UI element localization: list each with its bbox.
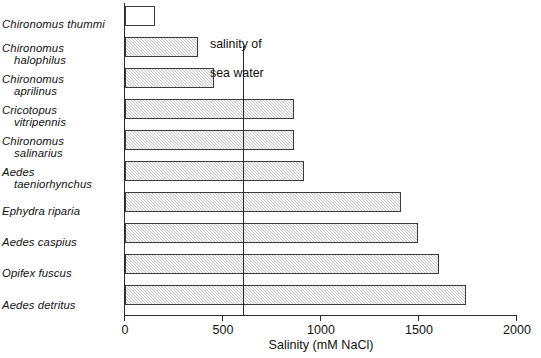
bar-aedes-caspius[interactable]	[125, 223, 418, 243]
bar-chironomus-salinarius[interactable]	[125, 130, 294, 150]
category-label-ephydra-riparia: Ephydra riparia	[2, 192, 114, 217]
seawater-salinity-line	[243, 46, 244, 315]
category-label-opifex-fuscus: Opifex fuscus	[2, 254, 114, 279]
category-label-line1: Opifex fuscus	[2, 267, 72, 279]
x-tick-label-2000: 2000	[503, 323, 531, 337]
bar-opifex-fuscus[interactable]	[125, 254, 439, 274]
x-tick-label-1500: 1500	[405, 323, 433, 337]
plot-area: 0 500 1000 1500 2000	[125, 3, 517, 315]
seawater-annotation-line2: sea water	[210, 66, 264, 80]
x-tick-label-0: 0	[122, 323, 129, 337]
bar-ephydra-riparia[interactable]	[125, 192, 401, 212]
x-tick-0	[124, 315, 125, 321]
category-label-line1: Chironomus	[2, 73, 64, 85]
category-axis-labels: Chironomus thummi Chironomus halophilus …	[0, 0, 120, 318]
seawater-salinity-annotation: salinity of sea water	[210, 22, 264, 80]
category-label-aedes-detritus: Aedes detritus	[2, 286, 114, 311]
x-tick-label-1000: 1000	[307, 323, 335, 337]
bar-chironomus-aprilinus[interactable]	[125, 68, 214, 88]
category-label-line1: Chironomus	[2, 135, 64, 147]
bar-chironomus-halophilus[interactable]	[125, 37, 198, 57]
bar-chironomus-thummi[interactable]	[125, 6, 155, 26]
bar-aedes-taeniorhynchus[interactable]	[125, 161, 304, 181]
category-label-aedes-caspius: Aedes caspius	[2, 223, 114, 248]
bar-cricotopus-vitripennis[interactable]	[125, 99, 294, 119]
x-tick-2000	[516, 315, 517, 321]
x-tick-1500	[418, 315, 419, 321]
x-axis-title: Salinity (mM NaCl)	[125, 338, 517, 352]
x-tick-1000	[320, 315, 321, 321]
seawater-annotation-line1: salinity of	[210, 37, 262, 51]
category-label-chironomus-thummi: Chironomus thummi	[2, 5, 114, 30]
category-label-line1: Chironomus	[2, 42, 64, 54]
category-label-line2: taeniorhynchus	[2, 178, 114, 191]
salinity-tolerance-bar-chart: Chironomus thummi Chironomus halophilus …	[0, 0, 541, 358]
category-label-line1: Cricotopus	[2, 104, 57, 116]
bar-aedes-detritus[interactable]	[125, 285, 466, 305]
x-tick-500	[222, 315, 223, 321]
category-label-line1: Chironomus thummi	[2, 18, 105, 30]
category-label-line1: Aedes caspius	[2, 236, 77, 248]
x-tick-label-500: 500	[213, 323, 234, 337]
category-label-line1: Ephydra riparia	[2, 205, 80, 217]
category-label-line1: Aedes	[2, 166, 35, 178]
category-label-line1: Aedes detritus	[2, 299, 76, 311]
